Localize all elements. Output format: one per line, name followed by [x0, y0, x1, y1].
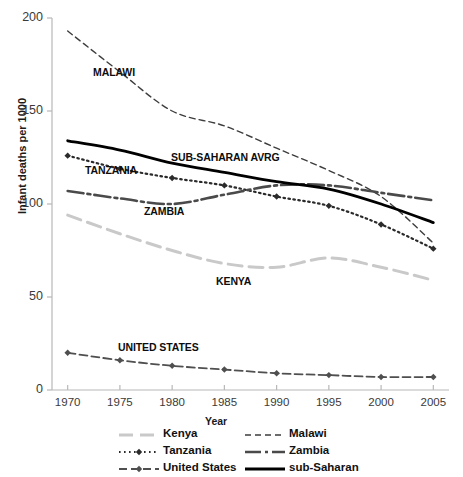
legend-label: sub-Saharan	[289, 461, 359, 473]
y-tick-50: 50	[9, 289, 43, 303]
legend-item-kenya[interactable]: Kenya	[118, 424, 236, 441]
annotation-kenya: KENYA	[216, 275, 251, 287]
data-point-marker	[378, 374, 384, 380]
legend-item-tanzania[interactable]: Tanzania	[118, 441, 236, 458]
x-tick-1990: 1990	[252, 396, 302, 408]
annotation-zambia: ZAMBIA	[144, 205, 184, 217]
y-tick-150: 150	[9, 103, 43, 117]
y-tick-0: 0	[9, 382, 43, 396]
annotation-tanzania: TANZANIA	[85, 164, 137, 176]
legend-item-zambia[interactable]: Zambia	[244, 441, 382, 458]
series-line-malawi	[68, 31, 434, 243]
annotation-sub-saharan: SUB-SAHARAN AVRG	[171, 151, 280, 163]
x-tick-2000: 2000	[356, 396, 406, 408]
data-point-marker	[326, 203, 332, 209]
infant-mortality-chart: Infant deaths per 1000 Year 050100150200…	[0, 0, 463, 477]
x-tick-1995: 1995	[304, 396, 354, 408]
legend-label: Malawi	[289, 427, 327, 439]
legend-key-swatch	[244, 427, 286, 439]
legend-key-swatch	[244, 444, 286, 456]
data-point-marker	[64, 152, 70, 158]
x-tick-1980: 1980	[147, 396, 197, 408]
legend-key-swatch	[244, 461, 286, 473]
x-tick-1985: 1985	[199, 396, 249, 408]
series-line-united-states	[68, 353, 434, 377]
data-point-marker	[64, 350, 70, 356]
legend-item-united-states[interactable]: United States	[118, 458, 236, 475]
legend-key-swatch	[118, 461, 160, 473]
y-tick-100: 100	[9, 196, 43, 210]
data-point-marker	[221, 182, 227, 188]
legend-key-swatch	[118, 444, 160, 456]
data-point-marker	[273, 193, 279, 199]
data-point-marker	[273, 370, 279, 376]
x-tick-2005: 2005	[408, 396, 458, 408]
data-point-marker	[221, 366, 227, 372]
data-point-marker	[378, 221, 384, 227]
annotation-united-states: UNITED STATES	[118, 341, 199, 353]
data-point-marker	[430, 374, 436, 380]
x-tick-1975: 1975	[95, 396, 145, 408]
data-point-marker	[169, 175, 175, 181]
legend-label: Kenya	[163, 427, 198, 439]
legend-item-sub-saharan[interactable]: sub-Saharan	[244, 458, 382, 475]
x-tick-1970: 1970	[43, 396, 93, 408]
legend-label: United States	[163, 461, 237, 473]
legend-key-swatch	[118, 427, 160, 439]
legend-item-malawi[interactable]: Malawi	[244, 424, 382, 441]
series-lines	[68, 31, 434, 377]
data-point-marker	[326, 372, 332, 378]
legend: KenyaMalawiTanzaniaZambiaUnited Statessu…	[118, 424, 398, 475]
legend-label: Tanzania	[163, 444, 211, 456]
y-tick-200: 200	[9, 10, 43, 24]
data-point-marker	[117, 357, 123, 363]
annotation-malawi: MALAWI	[93, 66, 135, 78]
legend-label: Zambia	[289, 444, 329, 456]
data-point-marker	[169, 363, 175, 369]
